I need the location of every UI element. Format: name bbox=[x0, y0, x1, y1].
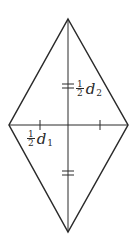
variable-d: d bbox=[86, 80, 96, 98]
label-half-d2: 1 2 d2 bbox=[76, 80, 102, 98]
label-half-d1: 1 2 d1 bbox=[27, 130, 53, 148]
fraction-one-half: 1 2 bbox=[76, 80, 84, 98]
subscript-1: 1 bbox=[47, 138, 53, 148]
fraction-one-half: 1 2 bbox=[27, 130, 35, 148]
rhombus-svg bbox=[0, 0, 138, 249]
variable-d: d bbox=[37, 130, 47, 148]
rhombus-diagram: 1 2 d2 1 2 d1 bbox=[0, 0, 138, 249]
subscript-2: 2 bbox=[96, 88, 102, 98]
